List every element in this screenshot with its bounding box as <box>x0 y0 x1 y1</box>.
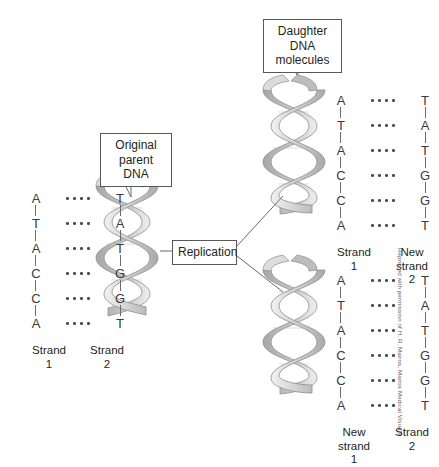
replication-label: Replication <box>178 245 237 259</box>
base-pair-row: A T <box>335 138 431 163</box>
base-left: A <box>335 94 347 107</box>
callout-line-2: parent DNA <box>119 153 153 182</box>
hydrogen-bonds <box>347 304 419 307</box>
hydrogen-bonds <box>347 99 419 102</box>
base-pair-row: T A <box>335 113 431 138</box>
hydrogen-bonds <box>347 124 419 127</box>
base-right: G <box>419 349 431 362</box>
hydrogen-bonds <box>347 279 419 282</box>
base-left: C <box>335 194 347 207</box>
hydrogen-bonds <box>42 272 114 275</box>
parent-base-pair-ladder: A T T A A T C G C <box>30 186 126 336</box>
base-right: G <box>114 292 126 305</box>
callout-line-1: Original <box>115 138 156 152</box>
base-pair-row: T A <box>335 293 431 318</box>
hydrogen-bonds <box>347 354 419 357</box>
base-right: T <box>114 192 126 205</box>
daughter-bottom-strand-labels: New strand 1 Strand 2 <box>328 426 438 467</box>
base-left: C <box>335 169 347 182</box>
strand-label-right: Strand 2 <box>386 426 438 467</box>
parent-strand-labels: Strand 1 Strand 2 <box>23 344 133 371</box>
base-pair-row: T A <box>30 211 126 236</box>
base-left: A <box>335 144 347 157</box>
base-pair-row: A T <box>335 213 431 238</box>
base-pair-row: C G <box>335 368 431 393</box>
image-credit: Reprinted with permission of H. R. Mairo… <box>397 248 404 428</box>
base-left: A <box>335 399 347 412</box>
base-pair-row: A T <box>30 236 126 261</box>
daughter-bottom-helix <box>263 255 325 394</box>
daughter-top-helix <box>263 75 325 214</box>
base-pair-row: C G <box>335 343 431 368</box>
hydrogen-bonds <box>347 149 419 152</box>
base-right: T <box>419 219 431 232</box>
daughter-bottom-base-pair-ladder: A T T A A T C G C <box>335 268 431 418</box>
base-right: G <box>419 374 431 387</box>
callout-line-2: molecules <box>275 53 329 67</box>
hydrogen-bonds <box>347 199 419 202</box>
base-pair-row: C G <box>30 261 126 286</box>
base-pair-row: A T <box>30 186 126 211</box>
base-left: A <box>335 324 347 337</box>
base-right: T <box>114 242 126 255</box>
base-right: T <box>419 144 431 157</box>
hydrogen-bonds <box>42 247 114 250</box>
base-right: G <box>419 169 431 182</box>
base-pair-row: A T <box>30 311 126 336</box>
base-right: A <box>419 299 431 312</box>
base-right: T <box>419 94 431 107</box>
base-left: C <box>335 374 347 387</box>
hydrogen-bonds <box>42 322 114 325</box>
base-left: C <box>335 349 347 362</box>
hydrogen-bonds <box>347 224 419 227</box>
base-right: T <box>114 317 126 330</box>
base-left: A <box>30 192 42 205</box>
hydrogen-bonds <box>42 222 114 225</box>
base-right: G <box>419 194 431 207</box>
base-pair-row: A T <box>335 393 431 418</box>
base-pair-row: A T <box>335 268 431 293</box>
base-left: A <box>30 242 42 255</box>
base-right: A <box>114 217 126 230</box>
base-left: T <box>335 119 347 132</box>
base-right: A <box>419 119 431 132</box>
replication-callout[interactable]: Replication <box>172 240 237 265</box>
base-pair-row: A T <box>335 88 431 113</box>
base-right: G <box>114 267 126 280</box>
daughter-dna-molecules-callout[interactable]: Daughter DNA molecules <box>263 19 342 73</box>
callout-line-1: Daughter DNA <box>278 24 327 53</box>
base-left: A <box>335 274 347 287</box>
hydrogen-bonds <box>42 197 114 200</box>
hydrogen-bonds <box>347 379 419 382</box>
base-pair-row: C G <box>335 188 431 213</box>
hydrogen-bonds <box>347 174 419 177</box>
base-left: C <box>30 267 42 280</box>
hydrogen-bonds <box>347 329 419 332</box>
base-right: T <box>419 324 431 337</box>
base-left: T <box>30 217 42 230</box>
base-right: T <box>419 399 431 412</box>
base-left: T <box>335 299 347 312</box>
base-left: C <box>30 292 42 305</box>
base-pair-row: A T <box>335 318 431 343</box>
base-left: A <box>30 317 42 330</box>
daughter-top-base-pair-ladder: A T T A A T C G C <box>335 88 431 238</box>
base-pair-row: C G <box>30 286 126 311</box>
base-right: T <box>419 274 431 287</box>
hydrogen-bonds <box>347 404 419 407</box>
base-pair-row: C G <box>335 163 431 188</box>
strand-label-left: Strand 1 <box>23 344 75 371</box>
strand-label-left: New strand 1 <box>328 426 380 467</box>
strand-label-right: Strand 2 <box>81 344 133 371</box>
original-parent-dna-callout[interactable]: Original parent DNA <box>100 133 172 187</box>
base-left: A <box>335 219 347 232</box>
hydrogen-bonds <box>42 297 114 300</box>
